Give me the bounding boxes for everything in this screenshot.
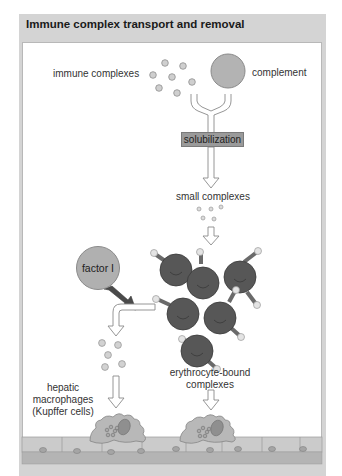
arrow-to-left-macrophage <box>108 376 124 408</box>
erythrocyte <box>187 249 219 300</box>
small-complex-particles <box>197 205 223 221</box>
label-hepatic-macrophages: hepatic macrophages (Kupffer cells) <box>30 382 96 418</box>
endothelium <box>22 437 322 464</box>
arrow-to-right-macrophage <box>203 390 219 410</box>
label-immune-complexes: immune complexes <box>53 68 139 80</box>
label-complement: complement <box>252 67 306 79</box>
merge-connector <box>191 94 231 132</box>
arrow-solubilization-to-small <box>203 147 219 188</box>
released-complex-particles <box>99 340 126 371</box>
label-line: macrophages <box>30 394 96 406</box>
erythrocyte <box>153 296 200 331</box>
label-erythrocyte-bound: erythrocyte-bound complexes <box>160 367 260 391</box>
solubilization-box: solubilization <box>181 132 244 147</box>
factor-i-node: factor I <box>76 246 120 290</box>
arrow-small-to-erythrocytes <box>203 227 219 245</box>
immune-complex-particles <box>150 60 196 97</box>
label-line: hepatic <box>30 382 96 394</box>
label-small-complexes: small complexes <box>176 191 250 203</box>
label-line: erythrocyte-bound <box>160 367 260 379</box>
kupffer-cell-left <box>90 414 146 444</box>
erythrocyte-cluster <box>151 248 262 373</box>
release-arrow <box>108 304 155 336</box>
complement-molecule <box>211 54 245 88</box>
erythrocyte <box>151 250 193 287</box>
label-line: complexes <box>160 379 260 391</box>
label-line: (Kupffer cells) <box>30 406 96 418</box>
kupffer-cell-right <box>180 415 235 444</box>
